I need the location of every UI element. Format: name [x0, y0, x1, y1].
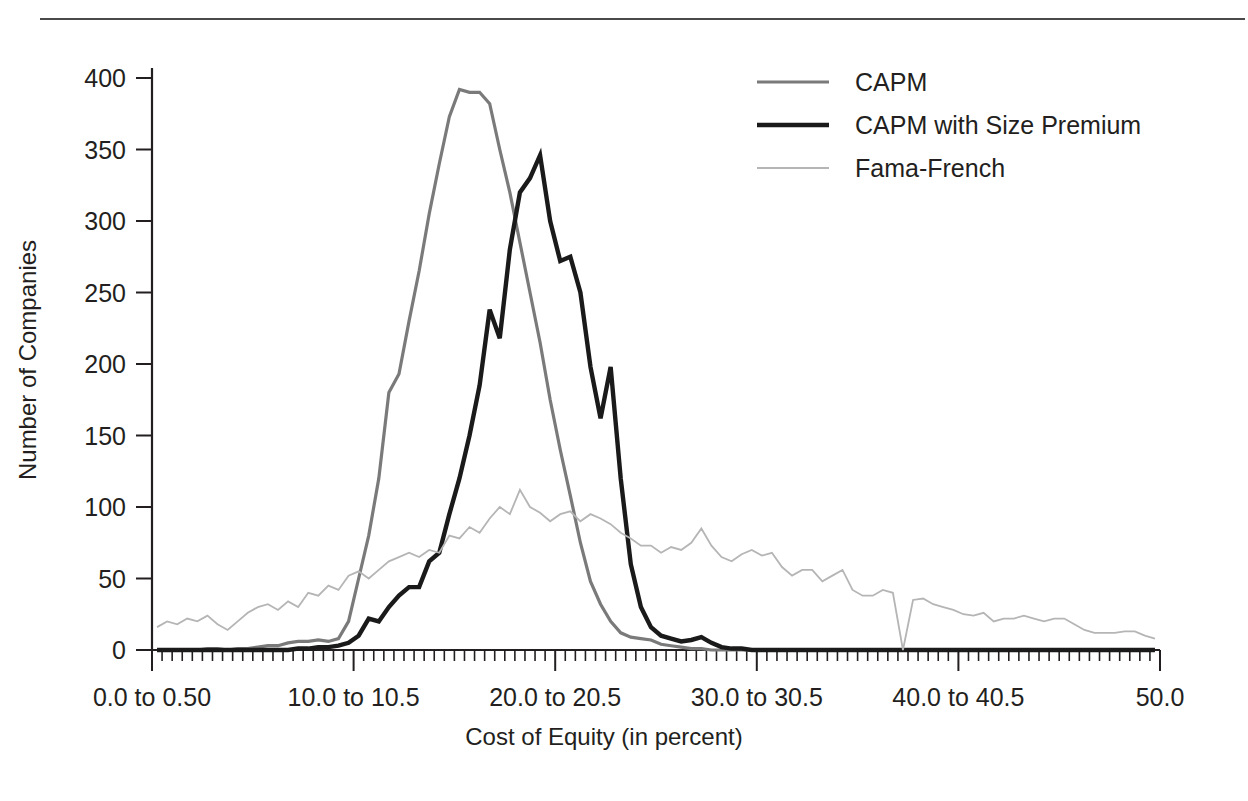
y-tick-label: 250: [84, 279, 126, 307]
y-tick-label: 300: [84, 207, 126, 235]
x-axis-tick-labels: 0.0 to 0.5010.0 to 10.520.0 to 20.530.0 …: [93, 683, 1184, 711]
chart-legend: CAPMCAPM with Size PremiumFama-French: [757, 68, 1141, 182]
legend-label-fama-french: Fama-French: [855, 154, 1005, 182]
x-tick-label: 20.0 to 20.5: [489, 683, 621, 711]
y-tick-label: 400: [84, 64, 126, 92]
x-tick-label: 10.0 to 10.5: [288, 683, 420, 711]
x-tick-label: 30.0 to 30.5: [691, 683, 823, 711]
series-line-capm: [157, 89, 1155, 650]
y-axis-title: Number of Companies: [14, 240, 41, 480]
series-line-capm-with-size-premium: [157, 155, 1155, 650]
x-axis-title: Cost of Equity (in percent): [465, 723, 742, 750]
legend-label-capm-with-size-premium: CAPM with Size Premium: [855, 111, 1141, 139]
figure-page: 050100150200250300350400 0.0 to 0.5010.0…: [0, 0, 1248, 801]
legend-label-capm: CAPM: [855, 68, 927, 96]
x-tick-label: 50.0: [1136, 683, 1185, 711]
y-tick-label: 50: [98, 565, 126, 593]
histogram-chart: 050100150200250300350400 0.0 to 0.5010.0…: [0, 0, 1248, 801]
chart-axes: [152, 68, 1160, 650]
x-tick-label: 40.0 to 40.5: [892, 683, 1024, 711]
x-tick-label: 0.0 to 0.50: [93, 683, 211, 711]
y-tick-label: 200: [84, 350, 126, 378]
y-tick-label: 350: [84, 136, 126, 164]
series-line-fama-french: [157, 490, 1155, 650]
y-axis-ticks: [136, 78, 152, 650]
data-series-group: [157, 89, 1155, 650]
y-axis-tick-labels: 050100150200250300350400: [84, 64, 126, 664]
y-tick-label: 100: [84, 493, 126, 521]
y-tick-label: 150: [84, 422, 126, 450]
y-tick-label: 0: [112, 636, 126, 664]
